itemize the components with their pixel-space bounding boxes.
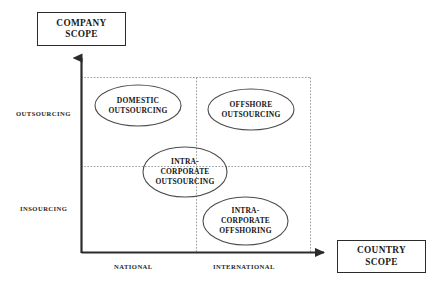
country-scope-line-2: SCOPE [365,257,398,268]
company-scope-line-1: COMPANY [56,18,106,29]
y-axis-tick-label-insourcing: INSOURCING [20,205,67,212]
country-scope-line-1: COUNTRY [357,245,406,256]
bubble-intra-corporate-offshoring[interactable] [203,197,288,245]
bubble-domestic-outsourcing[interactable] [95,85,181,126]
bubble-intra-corporate-outsourcing[interactable] [143,147,227,197]
grid-lines [81,78,311,254]
y-axis-tick-label-outsourcing: OUTSOURCING [16,110,71,117]
bubble-offshore-outsourcing[interactable] [208,89,294,130]
x-axis-tick-label-national: NATIONAL [114,263,153,270]
diagram-canvas: COMPANY SCOPE COUNTRY SCOPE OUTSOURCING … [0,0,442,289]
company-scope-line-2: SCOPE [65,29,98,40]
country-scope-axis-box: COUNTRY SCOPE [337,240,426,273]
company-scope-axis-box: COMPANY SCOPE [37,12,126,46]
x-axis-tick-label-international: INTERNATIONAL [213,263,275,270]
bubbles [95,85,294,245]
